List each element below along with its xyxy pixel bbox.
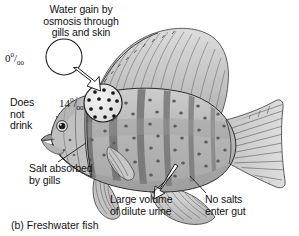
salinity-environment: 00/00 [5,53,24,64]
label-water-gain: Water gain by osmosis through gills and … [23,4,139,39]
label-does-not-drink: Does not drink [10,97,54,132]
label-salt-absorbed: Salt absorbed by gills [29,163,107,186]
salinity-body-value: 14 [59,97,70,109]
label-large-volume-dilute-urine: Large volume of dilute urine [110,194,196,217]
figure-caption: (b) Freshwater fish [11,219,99,231]
permille-symbol-icon: 0/00 [11,52,25,64]
permille-symbol-icon: 0/00 [70,97,84,109]
salinity-body-fluid: 140/00 [59,98,84,109]
body-fluid-detail-circle [84,84,122,122]
freshwater-fish-osmoregulation-figure: Water gain by osmosis through gills and … [0,0,299,236]
label-no-salts-enter-gut: No salts enter gut [205,194,267,217]
water-in-arrow [74,68,101,92]
